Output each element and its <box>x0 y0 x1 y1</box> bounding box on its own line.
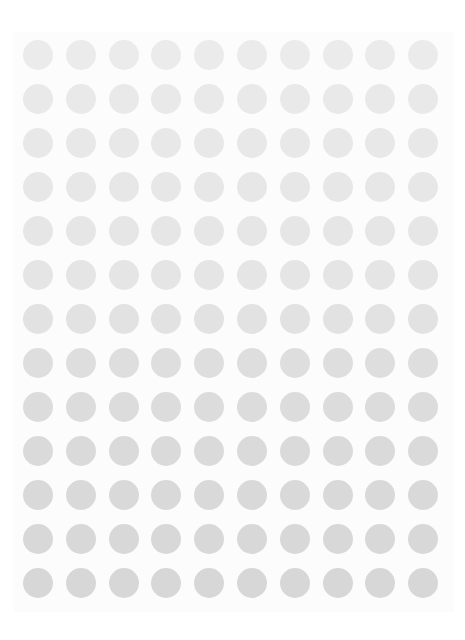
grid-dot <box>23 480 53 510</box>
grid-dot <box>23 40 53 70</box>
grid-dot <box>237 84 267 114</box>
grid-dot <box>66 436 96 466</box>
grid-dot <box>109 568 139 598</box>
grid-dot <box>280 40 310 70</box>
grid-dot <box>237 392 267 422</box>
grid-dot <box>408 568 438 598</box>
grid-dot <box>194 568 224 598</box>
grid-dot <box>408 436 438 466</box>
grid-dot <box>109 392 139 422</box>
grid-dot <box>109 436 139 466</box>
grid-dot <box>237 480 267 510</box>
grid-dot <box>23 172 53 202</box>
grid-dot <box>23 304 53 334</box>
grid-dot <box>194 172 224 202</box>
grid-dot <box>408 216 438 246</box>
grid-dot <box>237 128 267 158</box>
grid-dot <box>66 524 96 554</box>
grid-dot <box>194 524 224 554</box>
grid-dot <box>23 392 53 422</box>
grid-dot <box>109 260 139 290</box>
grid-dot <box>323 128 353 158</box>
grid-dot <box>66 128 96 158</box>
grid-dot <box>323 392 353 422</box>
grid-dot <box>323 216 353 246</box>
grid-dot <box>66 392 96 422</box>
grid-dot <box>408 40 438 70</box>
grid-dot <box>237 216 267 246</box>
grid-dot <box>194 304 224 334</box>
grid-dot <box>237 260 267 290</box>
grid-dot <box>408 480 438 510</box>
grid-dot <box>109 348 139 378</box>
grid-dot <box>408 172 438 202</box>
grid-dot <box>323 568 353 598</box>
grid-dot <box>237 172 267 202</box>
grid-dot <box>194 392 224 422</box>
grid-dot <box>280 348 310 378</box>
grid-dot <box>194 40 224 70</box>
grid-dot <box>408 304 438 334</box>
grid-dot <box>23 348 53 378</box>
grid-dot <box>194 436 224 466</box>
grid-dot <box>280 260 310 290</box>
grid-dot <box>66 216 96 246</box>
grid-dot <box>280 216 310 246</box>
grid-dot <box>323 480 353 510</box>
grid-dot <box>280 568 310 598</box>
grid-dot <box>23 216 53 246</box>
grid-dot <box>66 304 96 334</box>
grid-dot <box>323 40 353 70</box>
grid-dot <box>280 524 310 554</box>
grid-dot <box>280 392 310 422</box>
grid-dot <box>237 568 267 598</box>
grid-dot <box>237 524 267 554</box>
grid-dot <box>408 524 438 554</box>
grid-dot <box>408 260 438 290</box>
grid-dot <box>23 84 53 114</box>
grid-dot <box>237 348 267 378</box>
grid-dot <box>194 260 224 290</box>
grid-dot <box>323 172 353 202</box>
grid-dot <box>194 480 224 510</box>
grid-dot <box>23 260 53 290</box>
grid-dot <box>23 568 53 598</box>
grid-dot <box>323 436 353 466</box>
grid-dot <box>66 348 96 378</box>
grid-dot <box>323 524 353 554</box>
grid-dot <box>23 436 53 466</box>
grid-dot <box>280 480 310 510</box>
grid-dot <box>194 216 224 246</box>
grid-dot <box>323 84 353 114</box>
grid-dot <box>109 216 139 246</box>
grid-dot <box>323 260 353 290</box>
grid-dot <box>109 128 139 158</box>
grid-dot <box>23 128 53 158</box>
grid-dot <box>280 84 310 114</box>
grid-dot <box>194 348 224 378</box>
grid-dot <box>408 348 438 378</box>
grid-dot <box>66 172 96 202</box>
grid-dot <box>237 304 267 334</box>
grid-dot <box>280 436 310 466</box>
grid-dot <box>194 84 224 114</box>
grid-dot <box>109 524 139 554</box>
grid-dot <box>323 304 353 334</box>
grid-dot <box>66 40 96 70</box>
grid-dot <box>23 524 53 554</box>
grid-dot <box>66 480 96 510</box>
grid-dot <box>109 304 139 334</box>
grid-dot <box>237 40 267 70</box>
grid-dot <box>109 480 139 510</box>
grid-dot <box>280 304 310 334</box>
grid-dot <box>408 392 438 422</box>
grid-dot <box>66 260 96 290</box>
grid-dot <box>66 84 96 114</box>
grid-dot <box>280 128 310 158</box>
grid-dot <box>66 568 96 598</box>
grid-dot <box>323 348 353 378</box>
grid-dot <box>408 128 438 158</box>
grid-dot <box>109 172 139 202</box>
grid-dot <box>194 128 224 158</box>
grid-dot <box>408 84 438 114</box>
